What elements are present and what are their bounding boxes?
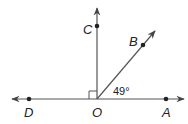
label-O: O: [92, 105, 102, 120]
label-B: B: [129, 34, 138, 49]
point-B: [141, 43, 146, 48]
point-D: [27, 97, 32, 102]
angle-diagram: C B D O A 49°: [0, 0, 188, 124]
label-C: C: [83, 22, 93, 37]
right-angle-marker: [89, 91, 97, 99]
point-A: [164, 97, 169, 102]
angle-label: 49°: [113, 85, 130, 97]
label-A: A: [161, 105, 171, 120]
label-D: D: [24, 105, 33, 120]
point-C: [95, 24, 100, 29]
